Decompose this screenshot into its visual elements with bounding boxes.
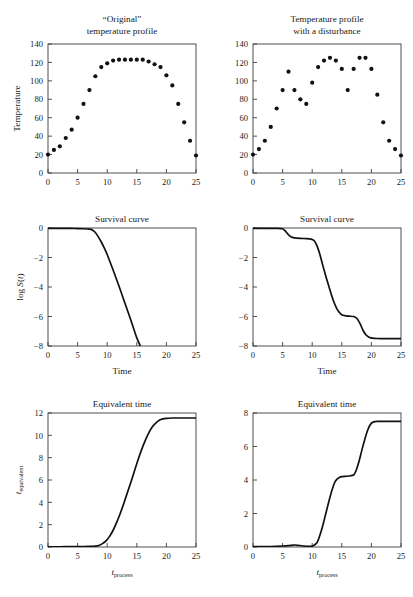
- x-axis-label: tprocess: [111, 567, 133, 578]
- data-point: [304, 102, 308, 106]
- six-panel-figure: “Original”temperature profile05101520250…: [0, 0, 413, 597]
- y-tick-label: 0: [244, 542, 248, 552]
- x-tick-label: 0: [251, 177, 255, 187]
- plot-frame: [48, 228, 196, 346]
- x-tick-label: 0: [46, 350, 50, 360]
- data-curve: [48, 418, 196, 547]
- x-axis-label-sub: process: [319, 571, 338, 578]
- x-tick-label: 15: [338, 350, 347, 360]
- y-tick-label: −2: [239, 253, 248, 263]
- panel-title: Equivalent time: [93, 399, 151, 409]
- panel-title-line2: with a disturbance: [293, 26, 360, 36]
- x-tick-label: 10: [103, 551, 112, 561]
- data-point: [292, 88, 296, 92]
- y-tick-label: −8: [34, 341, 43, 351]
- panel-title: Survival curve: [300, 214, 354, 224]
- panel-survival-disturbance: Survival curve0510152025−8−6−4−20Time: [239, 214, 405, 376]
- data-point: [46, 152, 50, 156]
- x-tick-label: 20: [367, 350, 376, 360]
- data-point: [194, 153, 198, 157]
- data-point: [58, 144, 62, 148]
- data-point: [105, 61, 109, 65]
- x-tick-label: 15: [338, 551, 347, 561]
- data-point: [340, 67, 344, 71]
- x-tick-label: 15: [338, 177, 347, 187]
- data-point: [76, 116, 80, 120]
- x-tick-label: 0: [251, 551, 255, 561]
- x-tick-label: 20: [367, 177, 376, 187]
- data-point: [176, 102, 180, 106]
- y-tick-label: 8: [244, 408, 248, 418]
- y-tick-label: 140: [30, 39, 43, 49]
- y-tick-label: −2: [34, 253, 43, 263]
- data-point: [310, 81, 314, 85]
- panel-temp-disturbance: Temperature profilewith a disturbance051…: [235, 14, 405, 187]
- y-tick-label: 6: [39, 475, 44, 485]
- data-point: [251, 152, 255, 156]
- data-point: [170, 83, 174, 87]
- y-tick-label: 0: [39, 168, 43, 178]
- data-point: [81, 102, 85, 106]
- y-tick-label: 60: [34, 113, 43, 123]
- data-point: [275, 106, 279, 110]
- data-point: [135, 58, 139, 62]
- data-point: [257, 147, 261, 151]
- y-tick-label: 80: [239, 94, 248, 104]
- data-point: [52, 148, 56, 152]
- data-point: [357, 56, 361, 60]
- y-tick-label: 2: [39, 520, 43, 530]
- x-tick-label: 10: [103, 177, 112, 187]
- x-tick-label: 25: [192, 551, 201, 561]
- y-tick-label: 2: [244, 509, 248, 519]
- x-tick-label: 20: [162, 177, 171, 187]
- data-curve: [253, 421, 401, 546]
- plot-frame: [253, 228, 401, 346]
- data-point: [188, 139, 192, 143]
- data-point: [381, 120, 385, 124]
- data-point: [281, 88, 285, 92]
- data-point: [99, 65, 103, 69]
- panel-temp-original: “Original”temperature profile05101520250…: [12, 14, 200, 187]
- data-point: [269, 125, 273, 129]
- x-tick-label: 25: [192, 350, 201, 360]
- x-tick-label: 25: [397, 177, 406, 187]
- x-tick-label: 15: [133, 551, 142, 561]
- x-tick-label: 25: [397, 551, 406, 561]
- data-point: [263, 139, 267, 143]
- y-tick-label: 4: [39, 498, 44, 508]
- panel-survival-original: Survival curve0510152025−8−6−4−20log S(t…: [15, 214, 200, 376]
- data-point: [387, 139, 391, 143]
- y-tick-label: 40: [34, 131, 43, 141]
- y-tick-label: 100: [235, 76, 248, 86]
- x-tick-label: 0: [251, 350, 255, 360]
- data-point: [286, 70, 290, 74]
- x-tick-label: 5: [280, 350, 284, 360]
- panel-equivalent-time-original: Equivalent time0510152025024681012tequiv…: [13, 399, 200, 578]
- y-tick-label: 4: [244, 475, 249, 485]
- x-axis-label-sub: process: [114, 571, 133, 578]
- panel-title-line1: Temperature profile: [290, 14, 363, 24]
- x-tick-label: 5: [75, 551, 79, 561]
- y-tick-label: 80: [34, 94, 43, 104]
- data-point: [393, 147, 397, 151]
- x-tick-label: 10: [308, 551, 317, 561]
- y-axis-label-paren-close: ): [15, 273, 25, 276]
- data-point: [375, 93, 379, 97]
- data-curve: [253, 228, 401, 338]
- x-tick-label: 0: [46, 177, 50, 187]
- x-tick-label: 5: [280, 177, 284, 187]
- y-tick-label: 0: [244, 168, 248, 178]
- data-point: [369, 67, 373, 71]
- data-point: [93, 74, 97, 78]
- panel-title-line1: “Original”: [103, 14, 142, 24]
- x-axis-label: Time: [112, 366, 131, 376]
- data-point: [129, 58, 133, 62]
- data-point: [322, 58, 326, 62]
- y-tick-label: 10: [34, 431, 43, 441]
- data-point: [182, 120, 186, 124]
- data-point: [111, 58, 115, 62]
- y-tick-label: 60: [239, 113, 248, 123]
- data-point: [328, 56, 332, 60]
- data-point: [147, 59, 151, 63]
- y-tick-label: 6: [244, 442, 249, 452]
